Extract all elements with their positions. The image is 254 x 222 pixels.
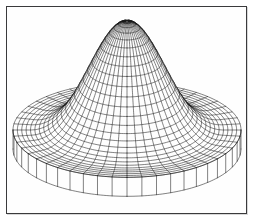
figure-root: Sombrero surface wireframe xyxy=(0,0,254,222)
surface-mesh-plot xyxy=(0,0,254,222)
wireframe-mesh-group xyxy=(13,20,241,196)
